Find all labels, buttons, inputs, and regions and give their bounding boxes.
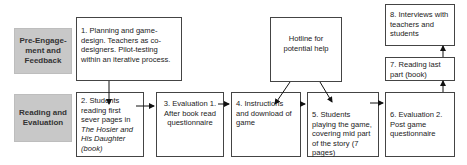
flow-diagram: Pre-Engage-ment and Feedback Reading and… [0, 0, 467, 165]
connector-arrows [0, 0, 467, 165]
